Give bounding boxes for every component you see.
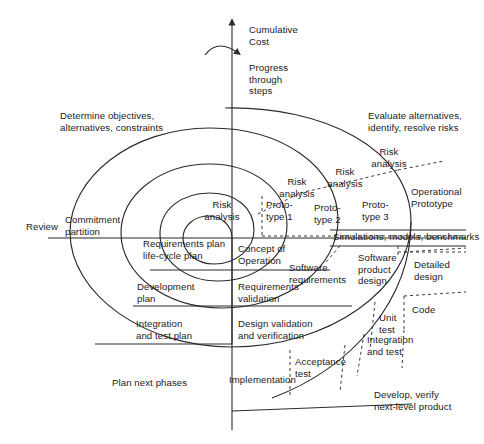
operational-prototype-label: Operational Prototype	[411, 186, 479, 209]
risk-analysis-label-3: Risk analysis	[322, 166, 368, 189]
integration-test-plan-label: Integration and test plan	[136, 318, 220, 341]
code-label: Code	[412, 304, 452, 316]
quadrant-develop-verify: Develop, verify next-level product	[374, 389, 484, 412]
risk-analysis-label-4: Risk analysis	[366, 146, 412, 169]
progress-through-steps-label: Progress through steps	[249, 62, 329, 97]
risk-analysis-label-2: Risk analysis	[274, 176, 320, 199]
quadrant-plan-next-phases: Plan next phases	[112, 377, 222, 389]
software-product-design-label: Software product design	[358, 252, 418, 287]
design-validation-label: Design validation and verification	[238, 318, 342, 341]
unit-test-label: Unit test	[379, 312, 411, 335]
spiral-model-diagram: Cumulative Cost Progress through steps R…	[0, 0, 484, 444]
commitment-partition-label: Commitment partition	[65, 214, 155, 237]
requirements-plan-label: Requirements plan life-cycle plan	[143, 238, 253, 261]
quadrant-determine-objectives: Determine objectives, alternatives, cons…	[60, 110, 210, 133]
prototype-3-label: Proto- type 3	[362, 199, 406, 222]
risk-analysis-label-1: Risk analysis	[200, 199, 244, 222]
review-label: Review	[0, 221, 58, 233]
cumulative-cost-label: Cumulative Cost	[249, 24, 335, 47]
quadrant-evaluate-alternatives: Evaluate alternatives, identify, resolve…	[368, 110, 484, 133]
implementation-label: Implementation	[229, 374, 319, 386]
prototype-1-label: Proto- type 1	[266, 199, 310, 222]
detailed-design-label: Detailed design	[414, 259, 472, 282]
requirements-validation-label: Requirements validation	[238, 281, 322, 304]
benchmarks-row-label: Simulations, models, benchmarks	[333, 231, 475, 243]
dash-code-top	[404, 292, 466, 296]
dash-benchmarks-div-1	[326, 246, 340, 262]
progress-arrow	[205, 46, 238, 55]
prototype-2-label: Proto- type 2	[314, 202, 358, 225]
development-plan-label: Development plan	[137, 281, 225, 304]
integration-and-test-label: Integration and test	[367, 334, 433, 357]
